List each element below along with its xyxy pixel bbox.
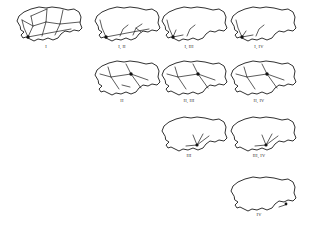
- network-node: [285, 203, 288, 206]
- panel-7-graphic: [222, 58, 302, 100]
- panel-3-graphic: [153, 4, 231, 46]
- panel-9-label: III, IV: [253, 153, 266, 158]
- panel-7: [222, 58, 302, 100]
- network-edge: [256, 25, 264, 36]
- panel-4-label: I, IV: [254, 44, 263, 49]
- panel-9: [222, 114, 302, 156]
- panel-4-graphic: [222, 4, 302, 46]
- network-edge: [60, 22, 80, 24]
- network-node: [171, 35, 174, 38]
- panel-4: [222, 4, 302, 46]
- region-outline: [231, 61, 296, 95]
- region-outline: [231, 177, 296, 211]
- figure-panel-grid: I I, II I, III: [0, 0, 310, 231]
- panel-1: [8, 4, 86, 46]
- panel-8: [153, 114, 231, 156]
- panel-8-label: III: [187, 153, 192, 158]
- network-node: [129, 72, 132, 75]
- panel-5-label: II: [120, 98, 123, 103]
- network-edge: [31, 9, 47, 16]
- network-edge: [28, 16, 33, 37]
- network-edge: [178, 77, 186, 89]
- network-edge: [197, 134, 203, 145]
- panel-6: [153, 58, 231, 100]
- panel-9-graphic: [222, 114, 302, 156]
- network-edge: [100, 74, 131, 77]
- network-edge: [175, 67, 178, 77]
- network-edge: [108, 67, 111, 77]
- panel-10-graphic: [222, 174, 302, 216]
- network-edge: [186, 145, 197, 146]
- network-node: [265, 72, 268, 75]
- network-edge: [255, 145, 266, 146]
- network-edge: [244, 67, 247, 77]
- network-edge: [236, 20, 242, 37]
- network-node: [240, 35, 243, 38]
- network-edge: [266, 134, 272, 145]
- network-edge: [236, 74, 267, 77]
- network-edge: [46, 10, 63, 24]
- network-edge: [167, 74, 198, 77]
- network-edge: [262, 135, 266, 145]
- panel-1-graphic: [8, 4, 86, 46]
- panel-7-label: II, IV: [254, 98, 265, 103]
- network-edge: [33, 9, 47, 26]
- region-outline: [162, 61, 227, 95]
- network-edge: [28, 29, 71, 37]
- network-edge: [247, 77, 255, 89]
- panel-10: [222, 174, 302, 216]
- network-edge: [193, 135, 197, 145]
- panel-3-label: I, III: [184, 44, 193, 49]
- region-outline: [95, 61, 160, 95]
- panel-8-graphic: [153, 114, 231, 156]
- network-node: [104, 35, 107, 38]
- network-edge: [106, 29, 149, 37]
- panel-10-label: IV: [256, 212, 261, 217]
- network-edge: [167, 20, 173, 37]
- network-edge: [55, 24, 60, 35]
- network-node: [195, 143, 198, 146]
- panel-1-label: I: [45, 44, 47, 49]
- network-node: [264, 143, 267, 146]
- panel-2-label: I, II: [118, 44, 126, 49]
- region-outline: [162, 117, 227, 151]
- network-edge: [279, 205, 285, 207]
- panel-3: [153, 4, 231, 46]
- panel-6-label: II, III: [184, 98, 195, 103]
- network-edge: [111, 77, 119, 89]
- network-node: [196, 72, 199, 75]
- network-edge: [100, 20, 106, 37]
- panel-6-graphic: [153, 58, 231, 100]
- network-edge: [122, 85, 130, 87]
- region-outline: [231, 117, 296, 151]
- network-node: [26, 35, 29, 38]
- network-edge: [187, 25, 195, 36]
